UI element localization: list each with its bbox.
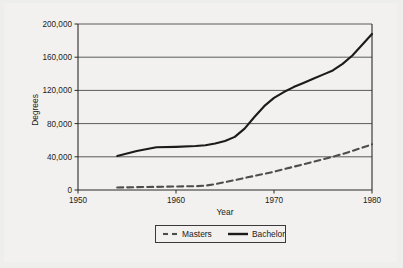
figure-container: 040,00080,000120,000160,000200,000 19501…: [0, 0, 403, 268]
chart-legend: Masters Bachelor: [156, 226, 286, 243]
y-axis-tick-label: 80,000: [47, 120, 72, 129]
line-chart: 040,00080,000120,000160,000200,000 19501…: [0, 0, 403, 268]
series-line-masters: [117, 144, 372, 187]
series-line-bachelor: [117, 34, 372, 156]
legend-label-bachelor: Bachelor: [252, 229, 285, 239]
y-axis-title: Degrees: [30, 94, 40, 126]
x-axis-tick-group: 1950196019701980: [69, 190, 382, 205]
y-axis-tick-label: 160,000: [42, 53, 72, 62]
x-axis-tick-label: 1980: [363, 196, 382, 205]
y-axis-tick-label: 120,000: [42, 86, 72, 95]
x-axis-tick-label: 1960: [167, 196, 186, 205]
x-axis-title: Year: [217, 207, 234, 217]
legend-label-masters: Masters: [182, 229, 212, 239]
y-axis-tick-label: 40,000: [47, 153, 72, 162]
y-axis-tick-label: 0: [67, 186, 72, 195]
y-axis-tick-group: 040,00080,000120,000160,000200,000: [42, 20, 78, 195]
x-axis-tick-label: 1950: [69, 196, 88, 205]
x-axis-tick-label: 1970: [265, 196, 284, 205]
y-axis-tick-label: 200,000: [42, 20, 72, 29]
gridline-group: [78, 24, 372, 157]
